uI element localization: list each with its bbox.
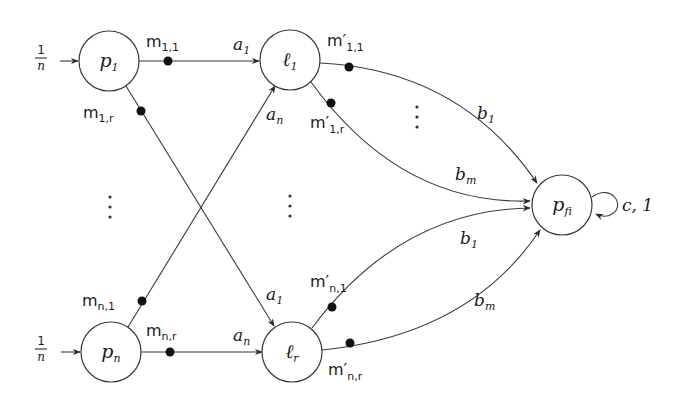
- label-edge-p1-l1: a1: [233, 34, 250, 57]
- label-mn1: mn,1: [82, 291, 115, 313]
- ellipsis-right-top: [415, 105, 418, 128]
- edge-l1-pfi-bm: [311, 82, 530, 201]
- label-edge-lr-pfi-b1: b1: [460, 228, 478, 251]
- svg-text:n: n: [37, 350, 45, 364]
- automaton-diagram: p1 pn ℓ1 ℓr pfi 1 n 1 n m1,1 m1,r mn,1 m…: [0, 0, 685, 402]
- node-p1: p1: [79, 31, 139, 91]
- edge-p1-lr: [126, 86, 274, 326]
- label-m1r: m1,r: [83, 103, 114, 125]
- self-loop-pfi: [592, 193, 618, 217]
- svg-text:1: 1: [37, 334, 45, 348]
- label-edge-lr-pfi-bm: bm: [474, 290, 495, 313]
- label-m11: m1,1: [146, 32, 179, 54]
- node-lr: ℓr: [262, 322, 322, 382]
- message-dot-mpn1: [328, 303, 337, 312]
- label-edge-pn-lr: an: [233, 325, 250, 348]
- input-prob-pn: 1 n: [35, 334, 47, 364]
- node-l1: ℓ1: [260, 30, 320, 90]
- message-dot-m11: [164, 57, 173, 66]
- label-mp11: m′1,1: [327, 31, 364, 54]
- message-dot-mnr: [166, 348, 175, 357]
- edge-l1-pfi-b1: [320, 63, 537, 183]
- label-edge-l1-pfi-b1: b1: [477, 103, 495, 126]
- ellipsis-middle: [288, 194, 291, 217]
- ellipsis-left: [108, 195, 111, 218]
- message-dot-m1r: [137, 107, 146, 116]
- label-edge-p1-lr: a1: [266, 284, 283, 307]
- label-self-loop: c, 1: [622, 195, 653, 215]
- message-dot-mn1: [138, 297, 147, 306]
- edge-lr-pfi-b1: [312, 208, 530, 328]
- message-dot-mpnr: [346, 339, 355, 348]
- label-mpn1: m′n,1: [310, 272, 347, 295]
- label-edge-pn-l1: an: [266, 104, 283, 127]
- svg-text:n: n: [37, 59, 45, 73]
- node-pn: pn: [81, 322, 141, 382]
- input-prob-p1: 1 n: [35, 43, 47, 73]
- message-dot-mp11: [345, 63, 354, 72]
- message-dot-mp1r: [327, 99, 336, 108]
- label-mpnr: m′n,r: [328, 360, 363, 383]
- label-mnr: mn,r: [146, 321, 177, 343]
- node-pfi: pfi: [532, 175, 592, 235]
- edge-lr-pfi-bm: [322, 230, 540, 350]
- svg-text:1: 1: [37, 43, 45, 57]
- label-edge-l1-pfi-bm: bm: [455, 164, 476, 187]
